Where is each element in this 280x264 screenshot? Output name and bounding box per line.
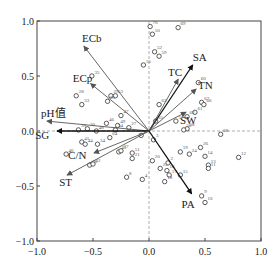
vector-arrow bbox=[84, 46, 149, 131]
sample-point-label: 37 bbox=[124, 144, 130, 149]
vector-label: PA bbox=[182, 198, 195, 210]
x-tick-label: 1.0 bbox=[255, 246, 268, 257]
sample-point-label: 4 bbox=[145, 173, 148, 178]
sample-point-label: 9 bbox=[204, 189, 207, 194]
vector-label: SW bbox=[180, 114, 197, 126]
sample-point-label: 10 bbox=[208, 196, 214, 201]
x-tick-label: −1.0 bbox=[28, 246, 46, 257]
sample-point-label: 28 bbox=[79, 89, 85, 94]
sample-point-label: 8 bbox=[129, 171, 132, 176]
sample-point-label: 47 bbox=[124, 109, 130, 114]
sample-point-label: 44 bbox=[88, 138, 94, 143]
y-tick-label: 1.0 bbox=[22, 16, 35, 27]
x-tick-label: −0.5 bbox=[84, 246, 102, 257]
vector-label: TC bbox=[168, 66, 182, 78]
vector-label: TN bbox=[198, 79, 213, 91]
sample-point-label: 27 bbox=[131, 121, 137, 126]
rda-biplot: −1.0−0.50.00.51.01.00.50.0−0.5−1.0 70695… bbox=[0, 0, 280, 264]
sample-point-label: 21 bbox=[135, 152, 141, 157]
vector-label: ST bbox=[59, 176, 72, 188]
sample-point-label: 12 bbox=[241, 151, 247, 156]
sample-point-label: 18 bbox=[167, 175, 173, 180]
sample-point-label: 15 bbox=[183, 169, 189, 174]
sample-point-label: 3 bbox=[156, 133, 159, 138]
plot-svg: −1.0−0.50.00.51.01.00.50.0−0.5−1.0 70695… bbox=[0, 0, 280, 264]
vector-arrow bbox=[149, 131, 192, 194]
sample-point-label: 33 bbox=[84, 98, 90, 103]
y-tick-label: −1.0 bbox=[16, 236, 34, 247]
sample-point-label: 51 bbox=[135, 147, 141, 152]
sample-point-label: 19 bbox=[183, 145, 189, 150]
sample-point-label: 25 bbox=[110, 95, 116, 100]
x-tick-label: 0.5 bbox=[199, 246, 212, 257]
sample-point-label: 50 bbox=[155, 28, 161, 33]
sample-point-label: 20 bbox=[155, 154, 161, 159]
sample-point-label: 66 bbox=[206, 98, 212, 103]
y-tick-label: −0.5 bbox=[16, 181, 34, 192]
vector-label: SG bbox=[35, 129, 49, 141]
x-tick-label: 0.0 bbox=[143, 246, 156, 257]
sample-point-label: 34 bbox=[100, 138, 106, 143]
sample-point-label: 69 bbox=[181, 21, 187, 26]
sample-point-label: 64 bbox=[112, 131, 118, 136]
sample-point-label: 70 bbox=[153, 20, 159, 25]
y-tick-label: 0.0 bbox=[22, 126, 35, 137]
sample-point-label: 24 bbox=[192, 148, 198, 153]
y-tick-label: 0.5 bbox=[22, 71, 35, 82]
vector-label: ECp bbox=[73, 72, 93, 84]
vector-label: SA bbox=[193, 51, 207, 63]
vector-label: ECb bbox=[82, 32, 102, 44]
vector-label: pH值 bbox=[41, 107, 65, 119]
sample-point-label: 11 bbox=[211, 162, 216, 167]
sample-point-label: 46 bbox=[109, 117, 115, 122]
sample-point-label: 2 bbox=[171, 156, 174, 161]
vector-label: C/N bbox=[68, 149, 86, 161]
sample-point-label: 14 bbox=[208, 150, 214, 155]
sample-point-label: 59 bbox=[162, 50, 168, 55]
sample-point-label: 35 bbox=[94, 70, 100, 75]
sample-point-label: 26 bbox=[203, 141, 209, 146]
sample-point-label: 30 bbox=[90, 122, 96, 127]
sample-point-label: 55 bbox=[146, 59, 152, 64]
sample-points: 7069505259556063676661625765585668123528… bbox=[64, 20, 247, 205]
sample-point-label: 61 bbox=[197, 106, 203, 111]
sample-point-label: 68 bbox=[223, 128, 229, 133]
